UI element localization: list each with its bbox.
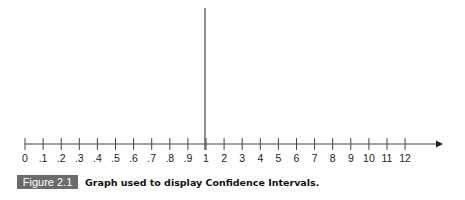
axis-tick-label: .6	[129, 152, 138, 164]
axis-tick-label: .7	[147, 152, 156, 164]
axis-tick-label: 1	[203, 152, 209, 164]
axis-tick-label: 9	[348, 152, 354, 164]
axis-tick-label: .2	[57, 152, 66, 164]
axis-tick-label: .1	[39, 152, 48, 164]
axis-tick-label: .4	[93, 152, 102, 164]
axis-tick-label: .5	[111, 152, 120, 164]
axis-tick-label: .8	[165, 152, 174, 164]
figure-caption: Graph used to display Confidence Interva…	[85, 176, 319, 190]
axis-tick-label: 0	[22, 152, 28, 164]
axis-tick-label: 11	[382, 152, 393, 164]
axis-tick-label: 10	[363, 152, 375, 164]
axis-tick-label: 4	[257, 152, 263, 164]
axis-tick-label: 7	[312, 152, 318, 164]
figure-label-badge: Figure 2.1	[17, 175, 78, 189]
axis-tick-label: 3	[239, 152, 245, 164]
confidence-interval-graph: 0.1.2.3.4.5.6.7.8.9123456789101112	[0, 0, 465, 170]
axis-tick-label: 6	[294, 152, 300, 164]
axis-tick-label: 5	[275, 152, 281, 164]
axis-tick-label: .9	[184, 152, 193, 164]
axis-tick-label: 8	[330, 152, 336, 164]
axis-tick-label: 12	[399, 152, 411, 164]
axis-tick-label: .3	[75, 152, 84, 164]
axis-tick-label: 2	[221, 152, 227, 164]
axis-arrow-icon	[436, 141, 443, 148]
